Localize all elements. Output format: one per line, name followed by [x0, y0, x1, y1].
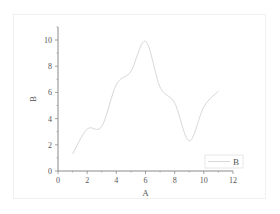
x-tick-label: 2 [85, 176, 89, 185]
x-tick-label: 10 [200, 176, 208, 185]
x-axis: 024681012 [56, 171, 237, 185]
y-tick-label: 2 [48, 141, 52, 150]
y-tick-label: 10 [44, 36, 52, 45]
series-b-line [73, 41, 219, 154]
x-tick-label: 4 [114, 176, 118, 185]
line-chart: 0246810 024681012 A B B [0, 0, 280, 214]
x-tick-label: 0 [56, 176, 60, 185]
y-tick-label: 8 [48, 62, 52, 71]
x-tick-label: 6 [144, 176, 148, 185]
x-tick-label: 12 [229, 176, 237, 185]
x-tick-label: 8 [173, 176, 177, 185]
y-axis-title: B [28, 96, 38, 102]
legend-label: B [233, 157, 239, 167]
x-axis-title: A [142, 188, 149, 198]
y-tick-label: 0 [48, 167, 52, 176]
y-axis: 0246810 [44, 27, 58, 176]
y-tick-label: 6 [48, 88, 52, 97]
legend: B [205, 155, 243, 168]
y-tick-label: 4 [48, 115, 52, 124]
